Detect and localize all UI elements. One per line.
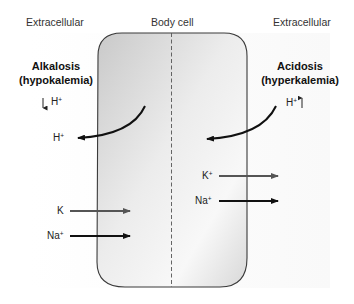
acidosis-title: Acidosis [254,60,346,72]
acidosis-k-label: K+ [202,170,212,182]
acidosis-na-label: Na+ [195,195,212,207]
alkalosis-k-label: K [57,205,64,217]
alkalosis-h-flux-label: H+ [53,132,64,144]
header-body-cell: Body cell [151,16,194,28]
diagram-graphics [0,0,354,304]
acidosis-subtitle: (hyperkalemia) [254,74,346,86]
header-extracellular-left: Extracellular [26,16,84,28]
alkalosis-na-label: Na+ [47,230,64,242]
acidosis-h-change-label: H+ [286,97,297,109]
body-cell-membrane [97,33,247,287]
diagram: Extracellular Body cell Extracellular Al… [0,0,354,304]
alkalosis-h-change-label: H+ [51,96,62,108]
alkalosis-subtitle: (hypokalemia) [10,74,102,86]
header-extracellular-right: Extracellular [273,16,331,28]
alkalosis-title: Alkalosis [10,60,102,72]
